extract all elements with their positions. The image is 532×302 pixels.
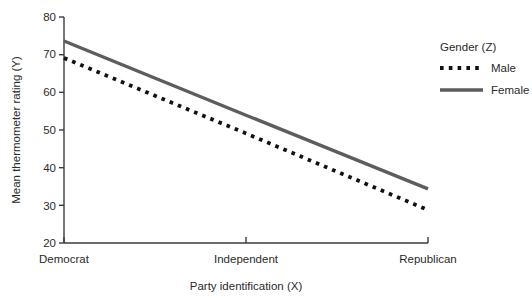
- series-line-male: [64, 58, 428, 210]
- y-tick-label-70: 70: [43, 48, 56, 60]
- y-tick-label-50: 50: [43, 124, 56, 136]
- x-axis-title: Party identification (X): [190, 280, 303, 292]
- y-tick-label-20: 20: [43, 237, 56, 249]
- legend-entry-male[interactable]: Male: [440, 62, 516, 74]
- y-tick-label-80: 80: [43, 11, 56, 23]
- legend-title: Gender (Z): [440, 41, 496, 53]
- chart-figure: 80 70 60 50 40 30 20 Democrat Independen…: [0, 0, 532, 302]
- x-tick-label-independent: Independent: [214, 253, 279, 265]
- y-tick-label-30: 30: [43, 200, 56, 212]
- y-axis-title: Mean thermometer rating (Y): [10, 56, 22, 204]
- x-tick-label-democrat: Democrat: [39, 253, 90, 265]
- line-chart-canvas: 80 70 60 50 40 30 20 Democrat Independen…: [0, 0, 532, 302]
- series-line-female: [64, 41, 428, 189]
- legend-entry-female[interactable]: Female: [440, 84, 529, 96]
- legend: Gender (Z) Male Female: [440, 41, 529, 96]
- y-tick-label-40: 40: [43, 162, 56, 174]
- y-tick-label-60: 60: [43, 86, 56, 98]
- x-tick-label-republican: Republican: [399, 253, 457, 265]
- legend-label-male: Male: [491, 62, 516, 74]
- legend-label-female: Female: [491, 84, 529, 96]
